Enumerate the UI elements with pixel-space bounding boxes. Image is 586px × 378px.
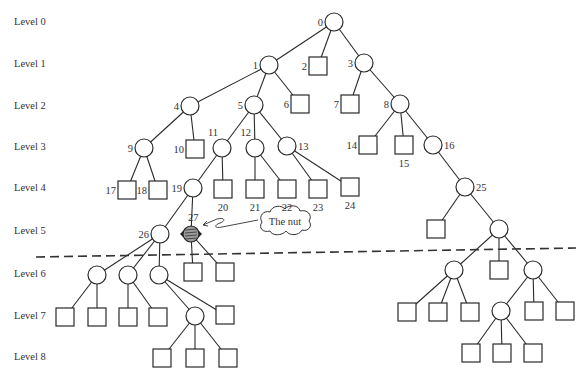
node-label: 7 [334, 99, 339, 110]
tree-node-square: 6 [284, 95, 309, 113]
square-leaf-icon [398, 303, 416, 321]
tree-node-square [88, 308, 106, 326]
tree-node-square: 7 [334, 95, 359, 113]
tree-node-circle [490, 220, 508, 238]
circle-node-icon [213, 139, 231, 157]
node-label: 23 [313, 202, 324, 213]
node-label: 27 [188, 212, 199, 223]
circle-node-icon [492, 302, 510, 320]
node-label: 18 [137, 185, 148, 196]
square-leaf-icon [525, 302, 543, 320]
tree-node-square [493, 344, 511, 362]
square-leaf-icon [462, 344, 480, 362]
node-label: 2 [302, 61, 307, 72]
tree-node-square [216, 306, 234, 324]
node-label: 8 [384, 99, 389, 110]
circle-node-icon [184, 179, 202, 197]
node-label: 14 [347, 140, 358, 151]
node-label: 3 [348, 58, 353, 69]
tree-node-circle: 26 [139, 225, 170, 243]
node-label: 9 [128, 143, 133, 154]
tree-node-square [524, 344, 542, 362]
circle-node-icon [278, 137, 296, 155]
square-leaf-icon [427, 220, 445, 238]
node-label: 26 [139, 229, 150, 240]
square-leaf-icon [490, 261, 508, 279]
node-label: 25 [476, 182, 487, 193]
tree-node-circle [524, 261, 542, 279]
tree-node-square: 10 [174, 140, 205, 158]
circle-node-icon [391, 95, 409, 113]
tree-node-square [556, 302, 574, 320]
tree-node-circle: 8 [384, 95, 409, 113]
tree-node-square [216, 263, 234, 281]
square-leaf-icon [186, 349, 204, 367]
tree-node-circle: 5 [238, 96, 263, 114]
square-leaf-icon [184, 263, 202, 281]
tree-node-circle: 12 [241, 127, 265, 157]
circle-node-icon [456, 178, 474, 196]
circle-node-icon [445, 261, 463, 279]
callout-squiggle-arrow [203, 218, 258, 227]
square-leaf-icon [149, 308, 167, 326]
square-leaf-icon [216, 263, 234, 281]
tree-node-circle: 3 [348, 54, 373, 72]
square-leaf-icon [341, 95, 359, 113]
tree-node-square [429, 303, 447, 321]
tree-node-square [461, 303, 479, 321]
tree-node-square [153, 349, 171, 367]
circle-node-icon [151, 225, 169, 243]
square-leaf-icon [56, 308, 74, 326]
circle-node-icon [490, 220, 508, 238]
square-leaf-icon [118, 181, 136, 199]
node-label: 11 [208, 127, 218, 138]
tree-nodes: 0123456789101112131415161718192021222324… [56, 13, 574, 367]
tree-node-square: 15 [395, 136, 413, 169]
nut-node-icon [183, 226, 199, 242]
square-leaf-icon [219, 349, 237, 367]
tree-node-square: 24 [341, 178, 359, 211]
circle-node-icon [186, 307, 204, 325]
node-label: 20 [218, 202, 229, 213]
circle-node-icon [424, 136, 442, 154]
circle-node-icon [260, 56, 278, 74]
square-leaf-icon [216, 306, 234, 324]
tree-node-circle [492, 302, 510, 320]
square-leaf-icon [395, 136, 413, 154]
tree-node-square [119, 308, 137, 326]
node-label: 21 [250, 202, 261, 213]
tree-node-square [149, 308, 167, 326]
tree-node-circle: 0 [318, 13, 343, 31]
circle-node-icon [119, 266, 137, 284]
circle-node-icon [181, 97, 199, 115]
tree-node-square: 20 [214, 180, 232, 213]
node-label: 4 [174, 101, 180, 112]
circle-node-icon [325, 13, 343, 31]
square-leaf-icon [119, 308, 137, 326]
square-leaf-icon [88, 308, 106, 326]
square-leaf-icon [341, 178, 359, 196]
tree-node-square [462, 344, 480, 362]
node-label: 22 [282, 202, 293, 213]
circle-node-icon [88, 266, 106, 284]
square-leaf-icon [309, 57, 327, 75]
tree-node-circle [150, 266, 168, 284]
node-label: 10 [174, 144, 185, 155]
tree-node-square: 17 [106, 181, 137, 199]
circle-node-icon [524, 261, 542, 279]
circle-node-icon [246, 139, 264, 157]
square-leaf-icon [461, 303, 479, 321]
circle-node-icon [135, 139, 153, 157]
circle-node-icon [355, 54, 373, 72]
square-leaf-icon [149, 181, 167, 199]
game-tree-diagram: The nut 01234567891011121314151617181920… [0, 0, 586, 378]
tree-node-square: 21 [246, 180, 264, 213]
tree-node-circle [186, 307, 204, 325]
tree-node-square [186, 349, 204, 367]
tree-node-circle: 11 [208, 127, 231, 157]
circle-node-icon [245, 96, 263, 114]
square-leaf-icon [214, 180, 232, 198]
square-leaf-icon [246, 180, 264, 198]
tree-node-square: 18 [137, 181, 168, 199]
node-label: 15 [399, 158, 410, 169]
